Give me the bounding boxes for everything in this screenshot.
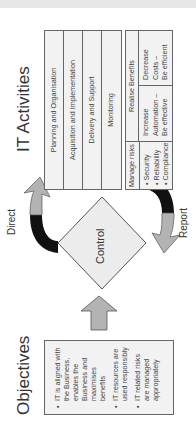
process-row-monitoring: Monitoring (102, 31, 121, 189)
control-label: Control (94, 229, 106, 264)
report-label: Report (178, 208, 189, 238)
objective-item: IT related risks are managed appropriate… (133, 345, 160, 408)
objectives-title: Objectives (14, 336, 34, 415)
direct-label: Direct (6, 209, 17, 235)
input-arrow-icon (80, 295, 118, 331)
decrease-costs-cell: Decrease Costs – Be efficient (139, 31, 172, 85)
process-row-planning: Planning and Organisation (45, 31, 64, 189)
risk-item-reliability: • Reliability (152, 142, 162, 185)
it-activities-title: IT Activities (14, 66, 34, 152)
manage-risks-header: Manage risks (126, 142, 140, 189)
objective-item: IT resources are used responsibly (111, 345, 129, 408)
process-row-acquisition: Acquisition and Implementation (64, 31, 83, 189)
realise-benefits-header: Realise Benefits (126, 31, 139, 141)
objectives-box: IT is aligned with the Business, enables… (44, 340, 174, 415)
page-edge-strip (0, 0, 196, 8)
coso-cobit-control-diagram: Objectives IT is aligned with the Busine… (0, 0, 196, 435)
objective-item: IT is aligned with the Business, enables… (53, 345, 107, 408)
risks-benefits-grid: Manage risks • Security • Reliability • … (125, 30, 173, 190)
it-processes-table: Planning and Organisation Acquisition an… (44, 30, 122, 190)
manage-risks-cell: Manage risks • Security • Reliability • … (126, 141, 172, 189)
risk-item-compliance: • Compliance (161, 142, 171, 185)
process-row-delivery: Delivery and Support (83, 31, 102, 189)
objectives-list: IT is aligned with the Business, enables… (53, 345, 164, 408)
risk-item-security: • Security (142, 142, 152, 185)
increase-automation-cell: Increase Automation – Be effective (139, 85, 172, 141)
